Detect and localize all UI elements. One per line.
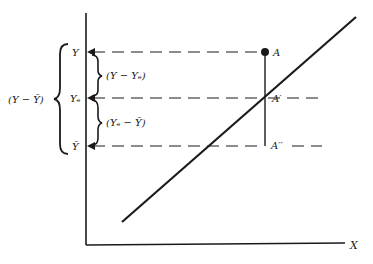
label-y-est: Yₑ [70,93,81,104]
label-a-prime: A′ [271,93,282,104]
regression-line [122,17,356,222]
unexplained-deviation-label: (Y − Yₑ) [106,70,146,81]
label-a: A [272,47,280,58]
regression-diagram: X A A′ A′′ Y Yₑ Ȳ (Y − Ȳ) (Y − Yₑ) (Yₑ −… [0,0,373,264]
x-axis [86,243,345,245]
label-a-double-prime: A′′ [270,140,283,151]
total-deviation-label: (Y − Ȳ) [8,94,44,105]
point-a [261,48,269,56]
arrow-y-bar-icon [87,142,95,150]
label-y-bar: Ȳ [72,141,80,152]
label-y: Y [72,47,80,58]
explained-deviation-label: (Yₑ − Ȳ) [106,117,146,128]
total-deviation-brace-icon [54,44,68,154]
x-axis-label: X [349,239,359,252]
diagram-canvas: X A A′ A′′ Y Yₑ Ȳ (Y − Ȳ) (Y − Yₑ) (Yₑ −… [0,0,373,264]
explained-brace-icon [92,100,102,145]
unexplained-brace-icon [92,55,102,96]
